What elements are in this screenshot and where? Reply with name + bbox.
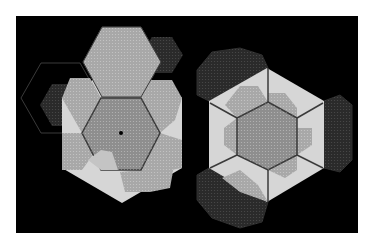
- center-dot: [119, 131, 123, 135]
- hex-tiling-figure: [0, 0, 373, 247]
- dark-hexagon-frame-texture: [324, 95, 352, 172]
